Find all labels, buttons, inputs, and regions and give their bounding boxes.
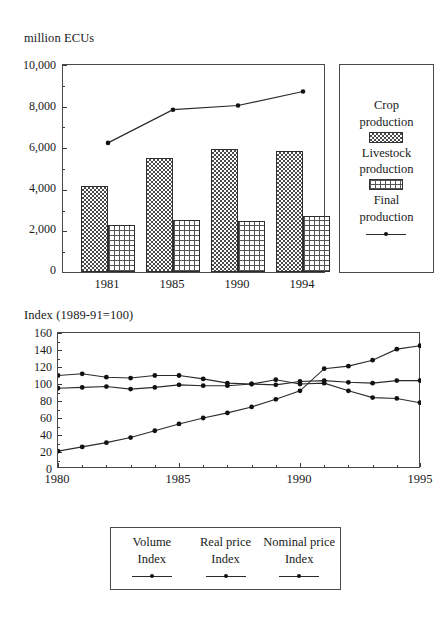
y-tick-label: 60 bbox=[10, 411, 52, 426]
crop-hatch-swatch-icon bbox=[369, 132, 403, 143]
legend-label: Livestock bbox=[359, 145, 413, 162]
legend-entry-final-production: Final production bbox=[359, 192, 413, 240]
bar-livestock-1990 bbox=[238, 221, 265, 272]
bar-crop-1994 bbox=[276, 151, 303, 272]
x-tick-label: 1990 bbox=[274, 472, 324, 487]
series-volume-index bbox=[58, 378, 421, 391]
series-real-price-index bbox=[58, 371, 421, 405]
top-chart-unit-label: million ECUs bbox=[24, 31, 94, 46]
legend-label: Real price bbox=[189, 534, 263, 551]
y-tick-label: 80 bbox=[10, 394, 52, 409]
index-chart-plot-area bbox=[57, 332, 420, 468]
legend-label: Volume bbox=[115, 534, 189, 551]
legend-entry-volume-index: Volume Index bbox=[115, 534, 189, 582]
bar-crop-1981 bbox=[81, 186, 108, 272]
y-tick-label: 10,000 bbox=[6, 58, 56, 73]
index-series-lines bbox=[58, 333, 421, 469]
bar-livestock-1981 bbox=[108, 225, 135, 272]
legend-label: production bbox=[359, 114, 413, 131]
line-marker-swatch-icon bbox=[206, 570, 246, 581]
bar-crop-1985 bbox=[146, 158, 173, 272]
line-marker-swatch-icon bbox=[279, 570, 319, 581]
legend-entry-real-price-index: Real price Index bbox=[189, 534, 263, 582]
series-nominal-price-index bbox=[58, 343, 421, 453]
bar-livestock-1994 bbox=[303, 216, 330, 272]
legend-entry-nominal-price-index: Nominal price Index bbox=[262, 534, 336, 582]
x-tick-label: 1985 bbox=[153, 472, 203, 487]
x-tick-label: 1995 bbox=[395, 472, 442, 487]
bar-livestock-1985 bbox=[173, 220, 200, 272]
bar-crop-1990 bbox=[211, 149, 238, 272]
legend-label: Nominal price bbox=[262, 534, 336, 551]
chart-page: million ECUs 10,000 8,000 6,000 4,000 2,… bbox=[0, 0, 442, 622]
legend-label: Index bbox=[262, 551, 336, 568]
legend-entry-livestock-production: Livestock production bbox=[359, 145, 413, 193]
y-tick-label: 160 bbox=[10, 326, 52, 341]
legend-label: production bbox=[359, 161, 413, 178]
x-tick-label: 1985 bbox=[142, 277, 202, 292]
legend-label: production bbox=[359, 209, 413, 226]
y-tick-label: 0 bbox=[6, 263, 56, 278]
y-tick-label: 20 bbox=[10, 445, 52, 460]
legend-label: Crop bbox=[359, 97, 413, 114]
legend-label: Final bbox=[359, 192, 413, 209]
bottom-chart-unit-label: Index (1989-91=100) bbox=[24, 308, 133, 323]
x-tick-label: 1981 bbox=[77, 277, 137, 292]
index-chart-legend: Volume Index Real price Index Nominal pr… bbox=[110, 527, 341, 590]
x-tick-label: 1980 bbox=[32, 472, 82, 487]
y-tick-label: 120 bbox=[10, 360, 52, 375]
production-chart-legend: Crop production Livestock production Fin… bbox=[339, 64, 434, 273]
y-tick-label: 4,000 bbox=[6, 181, 56, 196]
y-tick-label: 100 bbox=[10, 377, 52, 392]
x-tick-label: 1994 bbox=[272, 277, 332, 292]
line-marker-swatch-icon bbox=[132, 570, 172, 581]
production-chart-plot-area bbox=[62, 64, 325, 273]
legend-entry-crop-production: Crop production bbox=[359, 97, 413, 145]
y-tick-label: 8,000 bbox=[6, 99, 56, 114]
y-tick-label: 140 bbox=[10, 343, 52, 358]
y-tick-label: 40 bbox=[10, 428, 52, 443]
line-marker-swatch-icon bbox=[366, 228, 406, 239]
livestock-grid-swatch-icon bbox=[369, 179, 403, 190]
y-tick-label: 2,000 bbox=[6, 222, 56, 237]
legend-label: Index bbox=[115, 551, 189, 568]
legend-label: Index bbox=[189, 551, 263, 568]
x-tick-label: 1990 bbox=[207, 277, 267, 292]
y-tick-label: 6,000 bbox=[6, 140, 56, 155]
